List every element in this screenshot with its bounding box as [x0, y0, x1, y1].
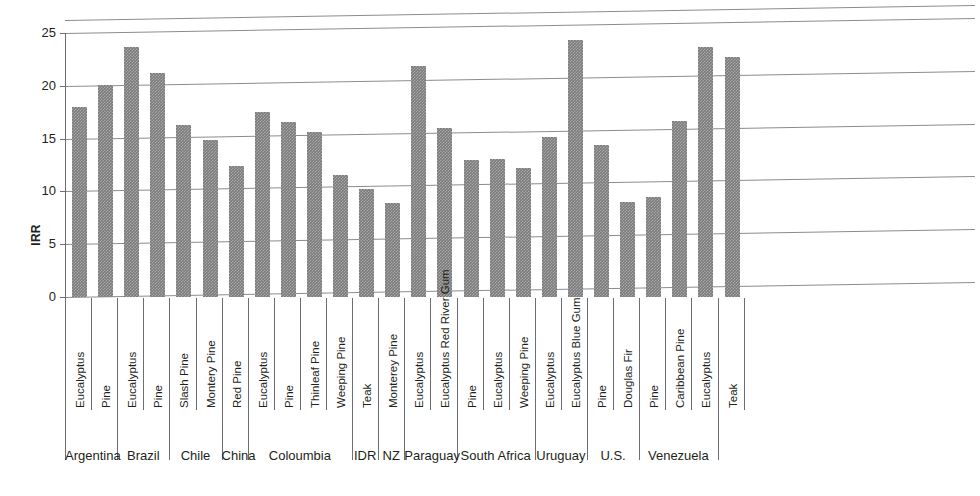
category-label: Teak — [361, 384, 373, 408]
category-label: Eucalyptus — [413, 352, 425, 408]
category-separator — [300, 298, 301, 410]
bar — [176, 125, 191, 297]
category-separator — [274, 298, 275, 410]
category-label: Thinleaf Pine — [309, 341, 321, 408]
bar — [359, 189, 374, 297]
bar — [542, 137, 557, 298]
plot-area — [65, 33, 975, 297]
country-label: Coloumbia — [248, 448, 352, 463]
bar — [307, 132, 322, 297]
category-label: Monterey Pine — [387, 334, 399, 408]
y-tick-label-5: 5 — [30, 237, 56, 250]
category-label: Weeping Pine — [518, 337, 530, 408]
country-labels-band: ArgentinaBrazilChileChinaColoumbiaIDRNZP… — [65, 430, 975, 470]
category-separator — [91, 298, 92, 410]
bar — [568, 40, 583, 297]
category-label: Montery Pine — [205, 340, 217, 408]
bar — [725, 57, 740, 297]
category-label: Eucalyptus Red River Gum — [439, 269, 451, 408]
bar — [255, 112, 270, 297]
bar — [464, 160, 479, 297]
category-separator — [665, 298, 666, 410]
bar — [594, 145, 609, 297]
bar — [698, 47, 713, 297]
irr-bar-chart: IRR 0510152025 EucalyptusPineEucalyptusP… — [0, 0, 980, 496]
y-tick-label-15: 15 — [30, 132, 56, 145]
category-separator — [561, 298, 562, 410]
country-label: Uruguay — [535, 448, 587, 463]
category-separator — [744, 298, 745, 410]
y-tick-label-10: 10 — [30, 184, 56, 197]
bar — [620, 202, 635, 297]
category-label: Eucalyptus — [492, 352, 504, 408]
bar — [490, 159, 505, 297]
bar — [229, 166, 244, 297]
category-separator — [143, 298, 144, 410]
country-label: IDR — [352, 448, 378, 463]
category-separator — [691, 298, 692, 410]
country-label: Argentina — [65, 448, 117, 463]
category-label: Pine — [648, 385, 660, 408]
bar — [411, 66, 426, 297]
category-separator — [483, 298, 484, 410]
category-label: Eucalyptus — [544, 352, 556, 408]
y-tick-label-20: 20 — [30, 79, 56, 92]
category-separator — [613, 298, 614, 410]
category-label: Pine — [152, 385, 164, 408]
country-label: Venezuela — [639, 448, 717, 463]
category-separator — [509, 298, 510, 410]
y-tick-label-0: 0 — [30, 290, 56, 303]
category-label: Eucalyptus — [257, 352, 269, 408]
category-label: Pine — [466, 385, 478, 408]
category-separator — [196, 298, 197, 410]
category-label: Weeping Pine — [335, 337, 347, 408]
category-label: Eucalyptus Blue Gum — [570, 297, 582, 408]
country-label: Brazil — [117, 448, 169, 463]
category-label: Pine — [100, 385, 112, 408]
category-label: Slash Pine — [178, 353, 190, 408]
country-label: U.S. — [587, 448, 639, 463]
category-label: Pine — [596, 385, 608, 408]
category-label: Red Pine — [231, 361, 243, 408]
bar — [646, 197, 661, 297]
category-label: Teak — [727, 384, 739, 408]
category-label: Eucalyptus — [74, 352, 86, 408]
category-labels-band: EucalyptusPineEucalyptusPineSlash PineMo… — [65, 298, 975, 430]
y-tick-label-25: 25 — [30, 26, 56, 39]
category-label: Eucalyptus — [700, 352, 712, 408]
bar — [281, 122, 296, 297]
bar — [124, 47, 139, 297]
category-label: Eucalyptus — [126, 352, 138, 408]
country-label: South Africa — [457, 448, 535, 463]
category-label: Pine — [283, 385, 295, 408]
country-label: NZ — [378, 448, 404, 463]
bar — [98, 85, 113, 297]
category-label: Douglas Fir — [622, 349, 634, 408]
country-label: China — [222, 448, 248, 463]
bar — [333, 175, 348, 297]
country-label: Chile — [169, 448, 221, 463]
category-separator — [430, 298, 431, 410]
category-label: Caribbean Pine — [674, 329, 686, 408]
bar — [516, 168, 531, 297]
bar — [385, 203, 400, 297]
bar — [72, 107, 87, 297]
category-separator — [326, 298, 327, 410]
bar — [150, 73, 165, 297]
bar — [672, 121, 687, 297]
country-label: Paraguay — [404, 448, 456, 463]
bar — [203, 140, 218, 297]
